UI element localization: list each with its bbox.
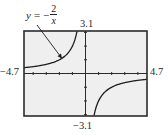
xmax-label: 4.7 [150, 67, 163, 78]
ymax-label: 3.1 [80, 19, 93, 30]
function-label-sign: − [43, 9, 49, 21]
xmin-label: −4.7 [0, 67, 19, 78]
function-label-lhs: y [26, 9, 31, 21]
function-label-equals: = [34, 9, 40, 21]
fraction-numerator: 2 [50, 4, 57, 15]
function-label: y = − 2 x [26, 4, 57, 26]
function-label-fraction: 2 x [50, 4, 57, 26]
calculator-graph-figure: y = − 2 x 3.1 −4.7 4.7 −3.1 [0, 0, 168, 135]
fraction-denominator: x [52, 15, 56, 26]
ymin-label: −3.1 [73, 121, 92, 132]
